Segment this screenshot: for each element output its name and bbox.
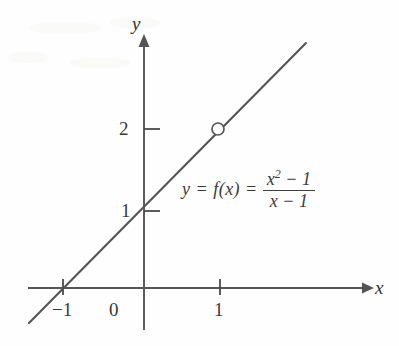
origin-label: 0 — [109, 300, 119, 319]
y-axis-label: y — [132, 14, 140, 33]
x-tick-label-1: 1 — [214, 300, 224, 319]
discontinuity-hole-icon — [212, 123, 224, 135]
equation-fraction: x2 − 1 x − 1 — [263, 168, 315, 211]
numerator-variable: x — [267, 169, 275, 189]
x-axis-arrowhead — [362, 283, 374, 294]
function-equation-annotation: y = f(x) = x2 − 1 x − 1 — [182, 168, 315, 211]
fraction-numerator: x2 − 1 — [263, 168, 315, 190]
y-tick-label-1: 1 — [121, 201, 131, 220]
x-axis-label: x — [375, 278, 383, 297]
numerator-remainder: − 1 — [285, 169, 311, 189]
y-tick-label-2: 2 — [119, 119, 129, 138]
figure-canvas: y x 2 1 −1 0 1 y = f(x) = x2 − 1 x − 1 — [0, 0, 399, 346]
equation-left-hand-side: y = f(x) = — [182, 179, 263, 200]
fraction-denominator: x − 1 — [266, 191, 312, 211]
y-axis-arrowhead — [139, 34, 150, 47]
x-tick-label-neg1: −1 — [52, 300, 72, 319]
numerator-exponent: 2 — [275, 167, 281, 181]
